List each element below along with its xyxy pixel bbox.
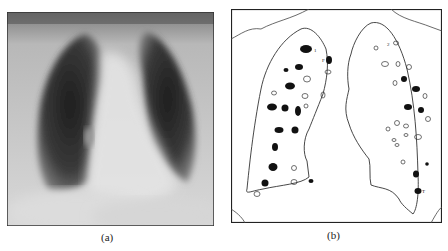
panel-b-caption: (b) [327,229,340,241]
annotation-t: T [422,189,425,194]
panel-a-caption: (a) [101,231,113,243]
annotation-f: F [322,58,325,63]
lung-nodule-diagram: 1 F 2 T [231,9,442,223]
chest-xray-image [7,12,214,226]
